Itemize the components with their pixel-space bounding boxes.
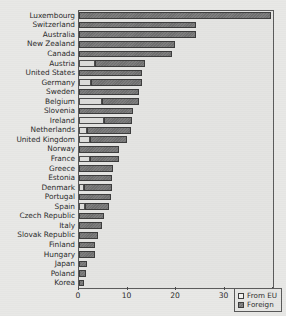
bar-segment-foreign [91,79,142,86]
bar-row: Italy [79,221,273,231]
category-label: Netherlands [30,126,75,134]
legend-label-from-eu: From EU [247,292,277,300]
bar-segment-from-eu [79,136,90,143]
bar-segment-foreign [87,127,131,134]
category-label: Ireland [50,117,75,125]
bar-segment-foreign [79,146,119,153]
category-label: Canada [47,50,75,58]
x-tick-mark [175,287,176,290]
bar-segment-foreign [85,203,109,210]
legend-item-foreign[interactable]: Foreign [238,300,277,309]
category-label: France [51,155,75,163]
bar-row: Luxembourg [79,11,273,21]
bar-row: Finland [79,240,273,250]
light-square-swatch [238,293,244,299]
bar-row: Switzerland [79,21,273,31]
bar-segment-foreign [79,280,84,287]
bar-segment-foreign [79,12,271,19]
bar-segment-foreign [79,222,102,229]
bar-segment-foreign [79,251,95,258]
bar-row: Netherlands [79,126,273,136]
category-label: Denmark [41,184,75,192]
x-tick-mark [224,287,225,290]
bar-row: Estonia [79,173,273,183]
category-label: Greece [49,165,75,173]
bar-row: Belgium [79,97,273,107]
bar-row: Greece [79,164,273,174]
category-label: Luxembourg [29,12,75,20]
x-tick-label: 30 [219,291,229,300]
bar-segment-foreign [95,60,144,67]
category-label: Italy [59,222,75,230]
category-label: Japan [55,260,75,268]
category-label: Slovak Republic [17,231,75,239]
bar-segment-from-eu [79,98,102,105]
bar-row: Czech Republic [79,212,273,222]
bar-segment-foreign [90,156,119,163]
bar-segment-foreign [79,70,142,77]
bar-segment-foreign [79,22,196,29]
bar-row: Canada [79,49,273,59]
category-label: Poland [51,270,75,278]
bar-segment-foreign [79,108,133,115]
bar-segment-foreign [79,51,172,58]
bar-row: Sweden [79,87,273,97]
category-label: United Kingdom [16,136,75,144]
bar-segment-from-eu [79,156,90,163]
plot-area: LuxembourgSwitzerlandAustraliaNew Zealan… [78,10,274,289]
x-tick-mark [78,287,79,290]
category-label: Korea [54,279,75,287]
x-tick-label: 0 [76,291,81,300]
bar-row: Ireland [79,116,273,126]
bar-segment-from-eu [79,127,87,134]
bar-segment-from-eu [79,79,91,86]
category-label: New Zealand [27,40,75,48]
chart-figure: LuxembourgSwitzerlandAustraliaNew Zealan… [0,0,286,316]
x-tick-label: 10 [122,291,132,300]
category-label: Estonia [48,174,75,182]
bar-row: Japan [79,259,273,269]
category-label: Austria [49,60,75,68]
bar-row: France [79,154,273,164]
bar-segment-foreign [79,31,196,38]
bar-segment-foreign [79,89,139,96]
bar-row: Poland [79,269,273,279]
bar-segment-foreign [79,175,112,182]
bar-segment-foreign [102,98,139,105]
bar-row: United Kingdom [79,135,273,145]
bar-segment-foreign [79,242,95,249]
category-label: Czech Republic [19,212,75,220]
bar-row: Norway [79,145,273,155]
bar-segment-foreign [79,213,104,220]
legend-label-foreign: Foreign [247,301,274,309]
bar-segment-foreign [79,194,111,201]
bar-row: United States [79,68,273,78]
category-label: Finland [49,241,75,249]
legend-item-from-eu[interactable]: From EU [238,291,277,300]
bar-segment-foreign [90,136,127,143]
bar-row: Slovak Republic [79,231,273,241]
category-label: Australia [43,31,75,39]
bar-segment-foreign [79,232,98,239]
x-tick-mark [127,287,128,290]
bar-row: Denmark [79,183,273,193]
bar-row: Slovenia [79,107,273,117]
chart-legend[interactable]: From EU Foreign [234,288,282,312]
bar-segment-foreign [79,41,175,48]
dark-square-swatch [238,302,244,308]
category-label: Spain [55,203,75,211]
bar-segment-from-eu [79,117,104,124]
bar-segment-from-eu [79,60,95,67]
bar-row: New Zealand [79,40,273,50]
category-label: Norway [47,145,75,153]
category-label: Germany [41,79,75,87]
category-label: Slovenia [44,107,75,115]
bar-row: Portugal [79,192,273,202]
bar-segment-foreign [79,270,86,277]
bar-segment-foreign [79,261,87,268]
bar-row: Germany [79,78,273,88]
bar-segment-foreign [79,165,113,172]
x-tick-label: 20 [170,291,180,300]
bar-segment-foreign [104,117,132,124]
bar-segment-foreign [84,184,112,191]
